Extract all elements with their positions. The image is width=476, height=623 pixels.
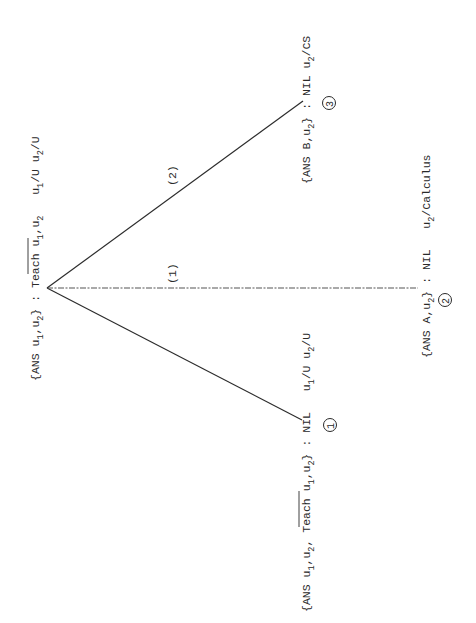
edge-label-1: (1) — [166, 263, 179, 284]
node-3-number: 3 — [325, 101, 336, 107]
node-3-number-badge: 3 — [323, 97, 337, 110]
root-node-label: {ANS u1,u2} : Teach u1,u2 u1/U u2/U — [29, 136, 46, 381]
teach-negated: Teach — [29, 253, 42, 288]
node-2: {ANS A,u2} : NIL u2/Calculus — [420, 155, 437, 358]
node-2-number: 2 — [441, 298, 452, 304]
edge-label-2: (2) — [166, 165, 179, 186]
node-1-number: 1 — [326, 423, 337, 429]
node-2-label: {ANS A,u2} : NIL u2/Calculus — [420, 155, 437, 358]
node-1: {ANS u1,u2, Teach u1,u2} : NIL u1/U u2/U — [299, 333, 317, 612]
node-3: {ANS B,u2} : NIL u2/CS — [300, 36, 317, 184]
search-tree-diagram: (2) (1) {ANS u1,u2} : Teach u1,u2 u1/U u… — [0, 0, 476, 623]
node-1-number-badge: 1 — [324, 419, 338, 432]
edge-root-to-node-1 — [47, 288, 302, 420]
teach-negated: Teach — [300, 498, 313, 533]
edge-root-to-node-3 — [47, 101, 303, 288]
root-node: {ANS u1,u2} : Teach u1,u2 u1/U u2/U — [28, 136, 46, 381]
node-2-number-badge: 2 — [439, 294, 453, 307]
node-1-label: {ANS u1,u2, Teach u1,u2} : NIL u1/U u2/U — [300, 333, 317, 612]
node-3-label: {ANS B,u2} : NIL u2/CS — [300, 36, 317, 184]
